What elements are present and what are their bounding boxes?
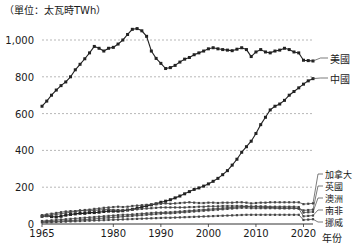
data-point-marker (307, 215, 309, 217)
data-series-group (41, 27, 315, 224)
data-point-marker (235, 158, 238, 161)
data-point-marker (55, 221, 57, 223)
data-point-marker (255, 214, 257, 216)
data-point-marker (188, 201, 190, 203)
data-point-marker (288, 207, 290, 209)
data-point-marker (202, 50, 205, 53)
data-point-marker (212, 209, 214, 211)
data-point-marker (307, 59, 310, 62)
data-point-marker (83, 57, 86, 60)
data-point-marker (217, 209, 219, 211)
data-point-marker (69, 220, 71, 222)
x-tick-label: 1990 (148, 228, 173, 239)
data-point-marker (184, 211, 186, 213)
data-point-marker (64, 80, 67, 83)
data-point-marker (250, 140, 253, 143)
data-point-marker (203, 210, 205, 212)
data-point-marker (60, 215, 63, 218)
data-point-marker (269, 108, 272, 111)
data-point-marker (193, 206, 195, 208)
data-point-marker (74, 68, 77, 71)
data-point-marker (236, 201, 238, 203)
data-point-marker (226, 208, 228, 210)
x-axis-title: 年份 (322, 230, 342, 245)
data-point-marker (279, 214, 281, 216)
data-point-marker (250, 214, 252, 216)
data-point-marker (88, 51, 91, 54)
data-point-marker (245, 202, 247, 204)
data-point-marker (293, 207, 295, 209)
data-point-marker (74, 210, 76, 212)
data-point-marker (188, 211, 190, 213)
data-point-marker (297, 86, 300, 89)
data-point-marker (198, 202, 200, 204)
data-point-marker (184, 216, 186, 218)
data-point-marker (207, 202, 209, 204)
data-point-marker (160, 217, 162, 219)
data-point-marker (55, 216, 58, 219)
data-point-marker (169, 203, 171, 205)
data-point-marker (288, 48, 291, 51)
data-point-marker (274, 201, 276, 203)
series-label-china: 中國 (330, 71, 350, 86)
data-point-marker (288, 214, 290, 216)
data-point-marker (93, 219, 95, 221)
data-point-marker (307, 211, 309, 213)
legend-leader-line (313, 210, 323, 216)
data-point-marker (45, 100, 48, 103)
data-point-marker (141, 208, 143, 210)
x-tick-label: 2020 (291, 228, 316, 239)
data-point-marker (193, 53, 196, 56)
data-point-marker (259, 123, 262, 126)
data-point-marker (231, 207, 233, 209)
data-point-marker (293, 201, 295, 203)
data-point-marker (207, 182, 210, 185)
data-point-marker (264, 207, 266, 209)
data-point-marker (46, 213, 48, 215)
data-point-marker (292, 90, 295, 93)
data-point-marker (184, 202, 186, 204)
data-point-marker (269, 51, 272, 54)
data-point-marker (131, 205, 133, 207)
data-point-marker (269, 214, 271, 216)
data-point-marker (207, 205, 209, 207)
data-point-marker (222, 205, 224, 207)
data-point-marker (140, 29, 143, 32)
data-point-marker (264, 50, 267, 53)
data-point-marker (160, 206, 162, 208)
data-point-marker (136, 27, 139, 30)
data-point-marker (298, 201, 300, 203)
data-point-marker (302, 211, 304, 213)
data-point-marker (212, 180, 215, 183)
data-point-marker (260, 207, 262, 209)
data-point-marker (283, 47, 286, 50)
data-point-marker (259, 48, 262, 51)
data-point-marker (241, 201, 243, 203)
data-point-marker (112, 206, 114, 208)
data-point-marker (174, 196, 177, 199)
data-point-marker (307, 218, 309, 220)
data-point-marker (179, 206, 181, 208)
data-point-marker (169, 198, 172, 201)
data-point-marker (307, 79, 310, 82)
data-point-marker (245, 48, 248, 51)
data-point-marker (107, 208, 109, 210)
data-point-marker (65, 221, 67, 223)
series-line-china (42, 79, 313, 217)
data-point-marker (178, 195, 181, 198)
data-point-marker (236, 214, 238, 216)
data-point-marker (179, 216, 181, 218)
data-point-marker (278, 103, 281, 106)
data-point-marker (131, 218, 133, 220)
data-point-marker (155, 217, 157, 219)
data-point-marker (188, 206, 190, 208)
data-point-marker (122, 216, 124, 218)
data-point-marker (183, 192, 186, 195)
data-point-marker (79, 63, 82, 66)
x-tick-label: 1980 (101, 228, 126, 239)
data-point-marker (117, 206, 119, 208)
data-point-marker (88, 220, 90, 222)
data-point-marker (179, 211, 181, 213)
data-point-marker (269, 207, 271, 209)
data-point-marker (236, 207, 238, 209)
